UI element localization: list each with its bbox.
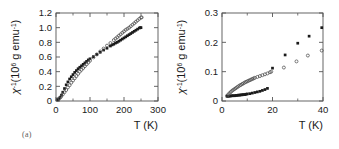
data-point — [284, 54, 287, 57]
y-tick-label: 0.8 — [39, 37, 52, 48]
x-tick-label: 40 — [318, 104, 329, 115]
data-point — [109, 42, 112, 45]
y-tick-label: 0.2 — [205, 37, 218, 48]
y-tick-label: 0 — [213, 95, 218, 106]
panel-b-plot: 0204000.10.20.3T (K)χ-1(106 g emu-1) — [170, 0, 339, 149]
data-point — [251, 92, 254, 95]
x-axis-title: T (K) — [134, 119, 158, 131]
data-point — [308, 35, 311, 38]
data-point — [259, 90, 262, 93]
data-point — [306, 54, 309, 57]
x-tick-label: 20 — [267, 104, 278, 115]
panel-b: 0204000.10.20.3T (K)χ-1(106 g emu-1) (b) — [170, 0, 339, 149]
x-tick-label: 100 — [82, 104, 98, 115]
y-axis-title: χ-1(106 g emu-1) — [9, 20, 21, 95]
y-axis-title: χ-1(106 g emu-1) — [175, 20, 187, 95]
data-point — [320, 26, 323, 29]
x-axis-title: T (K) — [299, 119, 323, 131]
series-filled-squares — [56, 26, 142, 101]
data-point — [295, 60, 298, 63]
x-tick-label: 0 — [53, 104, 58, 115]
x-tick-label: 200 — [116, 104, 132, 115]
figure-container: 010020030000.20.40.60.81.01.2T (K)χ-1(10… — [0, 0, 339, 149]
series-open-circles — [56, 16, 143, 102]
y-tick-label: 0.3 — [205, 7, 218, 18]
y-tick-label: 1.2 — [39, 7, 52, 18]
data-point — [140, 26, 143, 29]
y-tick-label: 0 — [47, 95, 52, 106]
data-point — [253, 91, 256, 94]
y-tick-label: 0.2 — [39, 81, 52, 92]
data-point — [106, 44, 109, 47]
panel-a-plot: 010020030000.20.40.60.81.01.2T (K)χ-1(10… — [0, 0, 169, 149]
plot-frame — [56, 13, 158, 101]
series-open-circles — [226, 49, 324, 97]
x-tick-label: 300 — [150, 104, 166, 115]
y-tick-label: 0.4 — [39, 66, 52, 77]
data-point — [296, 42, 299, 45]
x-tick-label: 0 — [219, 104, 224, 115]
y-tick-label: 0.1 — [205, 66, 218, 77]
data-point — [256, 91, 259, 94]
data-point — [266, 87, 269, 90]
y-tick-label: 1.0 — [39, 22, 52, 33]
data-point — [67, 81, 70, 84]
data-point — [246, 93, 249, 96]
data-point — [248, 92, 251, 95]
panel-a-sublabel: (a) — [22, 130, 32, 139]
data-point — [282, 66, 285, 69]
data-point — [261, 89, 264, 92]
y-tick-label: 0.6 — [39, 51, 52, 62]
data-point — [271, 67, 274, 70]
data-point — [264, 88, 267, 91]
panel-a: 010020030000.20.40.60.81.01.2T (K)χ-1(10… — [0, 0, 169, 149]
